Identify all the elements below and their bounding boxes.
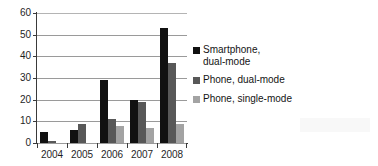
bar [130, 100, 138, 143]
x-tick-mark [67, 143, 97, 148]
y-tick-label: 50 [20, 30, 31, 40]
bar-chart: 0102030405060 20042005200620072008 Smart… [0, 0, 378, 166]
plot-region: 0102030405060 20042005200620072008 [0, 0, 193, 166]
x-axis-labels: 20042005200620072008 [37, 149, 187, 160]
x-tick-mark [127, 143, 157, 148]
x-axis-ticks [37, 143, 187, 148]
y-tick-label: 0 [25, 138, 31, 148]
x-tick-label: 2004 [37, 149, 67, 160]
bar [168, 63, 176, 143]
y-tick-label: 60 [20, 8, 31, 18]
bar [70, 130, 78, 143]
legend-item: Phone, single-mode [193, 93, 378, 105]
x-tick-label: 2006 [97, 149, 127, 160]
bar [78, 124, 86, 144]
y-tick-label: 10 [20, 116, 31, 126]
legend-swatch [193, 96, 200, 103]
legend: Smartphone, dual-modePhone, dual-modePho… [193, 44, 378, 111]
legend-label: Phone, dual-mode [203, 74, 285, 86]
y-tick-label: 20 [20, 95, 31, 105]
legend-swatch [193, 47, 200, 54]
legend-item: Smartphone, dual-mode [193, 44, 378, 67]
y-tick-label: 30 [20, 73, 31, 83]
bar [160, 28, 168, 143]
x-tick-label: 2008 [157, 149, 187, 160]
x-tick-mark [97, 143, 127, 148]
bar-group [37, 13, 67, 143]
legend-label: Smartphone, dual-mode [203, 44, 260, 67]
bar [146, 128, 154, 143]
legend-item: Phone, dual-mode [193, 74, 378, 86]
scan-watermark [300, 118, 370, 132]
legend-label: Phone, single-mode [203, 93, 292, 105]
bar [116, 126, 124, 143]
bar [176, 124, 184, 144]
y-tick-label: 40 [20, 51, 31, 61]
bar-groups [37, 13, 187, 143]
legend-swatch [193, 77, 200, 84]
x-tick-label: 2007 [127, 149, 157, 160]
bar [100, 80, 108, 143]
x-tick-label: 2005 [67, 149, 97, 160]
bar-group [127, 13, 157, 143]
bar [138, 102, 146, 143]
bar-group [97, 13, 127, 143]
bar [108, 119, 116, 143]
bar-group [67, 13, 97, 143]
x-tick-mark [157, 143, 187, 148]
bar-group [157, 13, 187, 143]
bar [40, 132, 48, 143]
x-tick-mark [37, 143, 67, 148]
